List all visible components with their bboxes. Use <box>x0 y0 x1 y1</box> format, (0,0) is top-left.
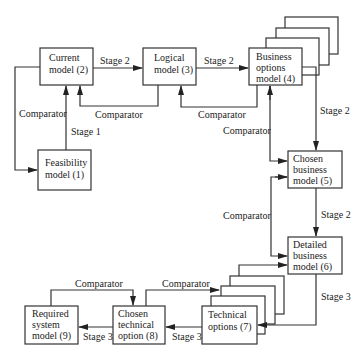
svg-text:Current: Current <box>49 52 80 63</box>
svg-text:Logical: Logical <box>154 52 185 63</box>
svg-text:Required: Required <box>32 308 69 319</box>
label-stage1: Stage 1 <box>71 126 101 137</box>
svg-text:technical: technical <box>118 319 154 330</box>
label-stage2-a: Stage 2 <box>100 55 130 66</box>
edge-technical-to-detailed <box>239 265 287 276</box>
svg-text:Chosen: Chosen <box>118 308 148 319</box>
label-comparator-1: Comparator <box>19 108 67 119</box>
svg-text:business: business <box>293 164 327 175</box>
label-stage2-d: Stage 2 <box>321 209 351 220</box>
svg-text:system: system <box>32 319 60 330</box>
svg-text:model (6): model (6) <box>293 261 332 273</box>
svg-text:Detailed: Detailed <box>293 239 327 250</box>
svg-text:options (7): options (7) <box>208 321 252 333</box>
svg-text:Chosen: Chosen <box>293 153 323 164</box>
svg-text:model (3): model (3) <box>154 64 193 76</box>
label-comparator-7: Comparator <box>75 278 123 289</box>
svg-text:Technical: Technical <box>208 309 247 320</box>
label-stage3-c: Stage 3 <box>83 331 113 342</box>
node-technical-options-label: Technical options (7) <box>208 309 252 333</box>
label-comparator-2: Comparator <box>95 109 143 120</box>
edge-comparator-chosen-detailed <box>271 177 287 256</box>
svg-text:model (1): model (1) <box>45 169 84 181</box>
node-detailed-business-label: Detailed business model (6) <box>293 239 332 273</box>
edge-comparator-business-logical <box>181 85 257 107</box>
svg-text:model (2): model (2) <box>49 64 88 76</box>
edge-comparator-chosen-technical-options <box>146 290 219 306</box>
label-comparator-3: Comparator <box>198 109 246 120</box>
label-comparator-4: Comparator <box>223 125 271 136</box>
svg-text:model (9): model (9) <box>32 330 71 342</box>
svg-text:model (4): model (4) <box>256 73 295 85</box>
label-stage3-a: Stage 3 <box>321 291 351 302</box>
label-comparator-5: Comparator <box>223 210 271 221</box>
svg-text:Feasibility: Feasibility <box>45 157 87 168</box>
label-stage2-b: Stage 2 <box>204 55 234 66</box>
edge-comparator-logical-current <box>80 85 158 106</box>
svg-text:Business: Business <box>256 51 292 62</box>
label-stage3-b: Stage 3 <box>172 331 202 342</box>
svg-text:option (8): option (8) <box>118 330 158 342</box>
edge-comparator-business-chosen <box>270 86 287 161</box>
svg-text:model (5): model (5) <box>293 175 332 187</box>
label-stage2-c: Stage 2 <box>320 105 350 116</box>
process-diagram: Current model (2) Logical model (3) Busi… <box>0 0 362 360</box>
label-comparator-6: Comparator <box>162 278 210 289</box>
node-feasibility-label: Feasibility model (1) <box>45 157 87 181</box>
edge-comparator-required-chosen <box>51 290 133 306</box>
edge-stage2-business-chosen <box>302 67 316 150</box>
svg-text:options: options <box>256 62 286 73</box>
svg-text:business: business <box>293 250 327 261</box>
